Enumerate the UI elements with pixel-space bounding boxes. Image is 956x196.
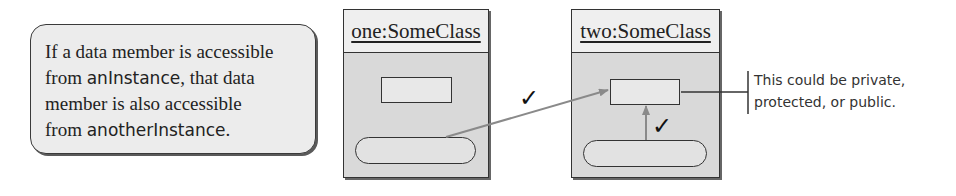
visibility-callout: This could be private, protected, or pub…	[754, 69, 905, 113]
callout-line-1: This could be private,	[754, 69, 905, 91]
callout-line-2: protected, or public.	[754, 91, 905, 113]
check-icon: ✓	[519, 84, 539, 112]
check-icon: ✓	[652, 112, 672, 140]
